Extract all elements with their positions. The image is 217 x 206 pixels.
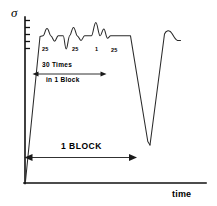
cycle-tag-4: 25 (111, 48, 117, 54)
cycle-tag-2: 25 (72, 47, 78, 53)
figure-canvas (0, 0, 217, 206)
cycle-tag-3: 1 (95, 47, 98, 53)
axes-group (24, 17, 206, 184)
block-span-arrowhead-right (129, 154, 137, 161)
x-axis-label: time (172, 190, 191, 199)
repeat-span-label-line2: in 1 Block (46, 77, 80, 84)
repeat-span-arrowhead-left (33, 72, 39, 77)
repeat-span-arrowhead-right (101, 72, 107, 77)
block-span-label: 1 BLOCK (61, 142, 102, 151)
stress-time-figure: σ time 25 25 1 25 30 Times in 1 Block 1 … (0, 0, 217, 206)
stress-waveform-block-2 (150, 31, 181, 145)
cycle-tag-1: 25 (42, 47, 48, 53)
repeat-span-label-line1: 30 Times (42, 62, 72, 69)
y-axis-label: σ (11, 6, 17, 19)
block-span-arrow (25, 154, 138, 161)
